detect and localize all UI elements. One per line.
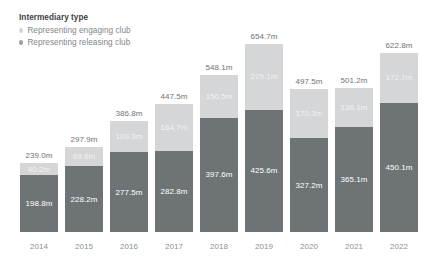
bar-segment-releasing-2020[interactable]: 327.2m (290, 138, 328, 232)
bar-total-label-2016: 386.8m (116, 109, 143, 118)
bar-group-2019[interactable]: 425.6m229.1m654.7m (245, 44, 283, 232)
bar-segment-value: 277.5m (116, 188, 143, 197)
bar-segment-value: 228.2m (71, 195, 98, 204)
bar-segment-engaging-2014[interactable]: 40.2m (20, 163, 58, 175)
stacked-bar-chart: Intermediary type Representing engaging … (0, 0, 435, 269)
bar-segment-engaging-2022[interactable]: 172.7m (380, 53, 418, 103)
bar-segment-engaging-2018[interactable]: 150.5m (200, 75, 238, 118)
bar-segment-engaging-2016[interactable]: 109.3m (110, 121, 148, 152)
bar-segment-releasing-2018[interactable]: 397.6m (200, 118, 238, 232)
bar-group-2022[interactable]: 450.1m172.7m622.8m (380, 53, 418, 232)
bar-total-label-2014: 239.0m (26, 151, 53, 160)
bar-total-label-2019: 654.7m (251, 32, 278, 41)
bar-segment-releasing-2014[interactable]: 198.8m (20, 175, 58, 232)
bar-segment-releasing-2017[interactable]: 282.8m (155, 151, 193, 232)
bar-segment-engaging-2021[interactable]: 136.1m (335, 88, 373, 127)
x-axis-label-2016: 2016 (120, 242, 138, 251)
x-axis-label-2017: 2017 (165, 242, 183, 251)
bar-group-2015[interactable]: 228.2m69.6m297.9m (65, 147, 103, 233)
bar-segment-releasing-2019[interactable]: 425.6m (245, 110, 283, 232)
bar-segment-value: 69.6m (73, 152, 95, 161)
x-axis-label-2014: 2014 (30, 242, 48, 251)
x-axis-label-2020: 2020 (300, 242, 318, 251)
bar-segment-value: 40.2m (28, 165, 50, 174)
x-axis-label-2021: 2021 (345, 242, 363, 251)
bar-segment-releasing-2022[interactable]: 450.1m (380, 103, 418, 232)
bar-segment-value: 365.1m (341, 175, 368, 184)
bar-segment-value: 450.1m (386, 163, 413, 172)
x-axis-label-2022: 2022 (390, 242, 408, 251)
bar-segment-value: 170.3m (296, 109, 323, 118)
bar-segment-value: 136.1m (341, 103, 368, 112)
bar-segment-engaging-2017[interactable]: 164.7m (155, 104, 193, 151)
bar-segment-value: 198.8m (26, 199, 53, 208)
bar-group-2014[interactable]: 198.8m40.2m239.0m (20, 163, 58, 232)
plot-area: 198.8m40.2m239.0m2014228.2m69.6m297.9m20… (0, 0, 435, 269)
bar-group-2020[interactable]: 327.2m170.3m497.5m (290, 89, 328, 232)
bar-group-2018[interactable]: 397.6m150.5m548.1m (200, 75, 238, 232)
bar-segment-releasing-2021[interactable]: 365.1m (335, 127, 373, 232)
bar-segment-engaging-2015[interactable]: 69.6m (65, 147, 103, 167)
bar-group-2016[interactable]: 277.5m109.3m386.8m (110, 121, 148, 232)
bar-group-2021[interactable]: 365.1m136.1m501.2m (335, 88, 373, 232)
bar-segment-engaging-2020[interactable]: 170.3m (290, 89, 328, 138)
bar-segment-releasing-2015[interactable]: 228.2m (65, 166, 103, 232)
bar-segment-value: 164.7m (161, 123, 188, 132)
bar-segment-value: 109.3m (116, 132, 143, 141)
bar-total-label-2017: 447.5m (161, 92, 188, 101)
bar-segment-value: 229.1m (251, 72, 278, 81)
x-axis-label-2019: 2019 (255, 242, 273, 251)
bar-segment-value: 425.6m (251, 166, 278, 175)
bar-segment-value: 172.7m (386, 73, 413, 82)
bar-group-2017[interactable]: 282.8m164.7m447.5m (155, 104, 193, 233)
bar-segment-value: 397.6m (206, 170, 233, 179)
bar-segment-value: 150.5m (206, 92, 233, 101)
bar-segment-value: 327.2m (296, 181, 323, 190)
x-axis-label-2018: 2018 (210, 242, 228, 251)
bar-segment-engaging-2019[interactable]: 229.1m (245, 44, 283, 110)
bar-segment-releasing-2016[interactable]: 277.5m (110, 152, 148, 232)
x-axis-label-2015: 2015 (75, 242, 93, 251)
bar-total-label-2022: 622.8m (386, 41, 413, 50)
bar-total-label-2018: 548.1m (206, 63, 233, 72)
bar-total-label-2015: 297.9m (71, 135, 98, 144)
bar-total-label-2021: 501.2m (341, 76, 368, 85)
bar-total-label-2020: 497.5m (296, 77, 323, 86)
bar-segment-value: 282.8m (161, 187, 188, 196)
